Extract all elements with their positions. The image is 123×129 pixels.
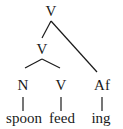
node-root-v: V (46, 4, 57, 19)
word-feed: feed (49, 111, 75, 126)
node-n: N (18, 78, 29, 93)
edge-inner-v-to-v (42, 59, 60, 68)
edge-root-to-inner-v (42, 21, 51, 38)
node-inner-v: V (37, 42, 48, 57)
edge-inner-v-to-n (25, 59, 42, 68)
node-v: V (56, 78, 67, 93)
morphological-tree: V V N V Af spoon feed ing (0, 0, 123, 129)
word-ing: ing (91, 111, 110, 126)
edge-root-to-af (51, 21, 97, 72)
word-spoon: spoon (6, 111, 42, 126)
node-af: Af (94, 78, 110, 93)
